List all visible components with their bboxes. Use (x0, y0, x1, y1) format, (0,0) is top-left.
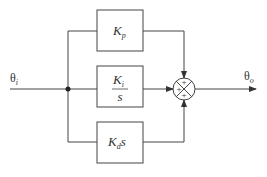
kd-label: Kds (107, 134, 126, 151)
kp-output-line (143, 31, 184, 78)
diagram-svg: + + + θi θo Kp Ki s Kds (0, 0, 267, 177)
summer-sign-bottom: + (181, 90, 186, 100)
ki-denominator: s (117, 89, 122, 104)
input-label: θi (10, 71, 18, 87)
output-label: θo (244, 69, 254, 85)
summer-sign-top: + (181, 77, 186, 87)
pid-block-diagram: + + + θi θo Kp Ki s Kds (0, 0, 267, 177)
kp-label: Kp (112, 23, 126, 40)
ki-numerator: Ki (112, 72, 124, 89)
kd-output-line (143, 100, 184, 142)
junction-dot (66, 87, 71, 92)
